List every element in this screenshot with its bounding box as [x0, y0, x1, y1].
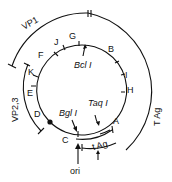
- large-tag-label: T Ag: [152, 108, 162, 126]
- taq-label: Taq I: [88, 98, 108, 108]
- small-tag-label: t Ag: [91, 138, 108, 151]
- ori-arrowhead: [75, 143, 81, 149]
- vp23-label: VP2,3: [10, 97, 20, 122]
- bcl-label: Bcl I: [74, 60, 92, 70]
- fragment-label-f: F: [38, 50, 44, 60]
- fragment-label-h: H: [127, 85, 134, 95]
- early-arc-1-tick: [112, 126, 113, 133]
- fragment-label-i: I: [125, 70, 128, 80]
- fragment-label-e: E: [27, 88, 33, 98]
- ori-label: ori: [70, 166, 80, 176]
- fragment-label-k: K: [28, 67, 34, 77]
- bgl-label: Bgl I: [59, 108, 78, 118]
- fragment-label-g: G: [69, 31, 76, 41]
- fragment-label-c: C: [62, 135, 69, 145]
- sv40-genome-map: A B C D E F G H I J K Bcl I Bgl I Taq I …: [0, 0, 172, 182]
- fragment-label-b: B: [108, 44, 114, 54]
- fragment-label-j: J: [54, 37, 59, 47]
- filled-marker: [47, 119, 52, 124]
- vp1-label: VP1: [20, 15, 40, 32]
- fragment-label-a: A: [113, 116, 119, 126]
- fragment-label-d: D: [34, 109, 41, 119]
- tag-arc: [88, 13, 152, 150]
